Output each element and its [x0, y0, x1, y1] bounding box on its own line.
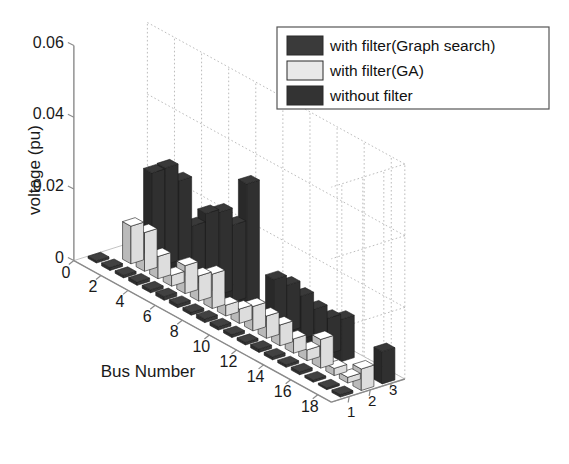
legend-item[interactable]: with filter(GA)	[287, 61, 424, 80]
tick-value	[68, 114, 74, 117]
bar	[374, 343, 395, 384]
legend-group: with filter(Graph search)with filter(GA)…	[277, 27, 549, 109]
tick-label-bus: 8	[170, 323, 179, 340]
bar-face-front	[166, 164, 179, 265]
legend-item[interactable]: with filter(Graph search)	[287, 36, 495, 55]
bar-face-front	[247, 180, 260, 309]
tick-label-series: 2	[368, 392, 376, 409]
bar-face-front	[253, 303, 266, 331]
tick-label-bus: 0	[61, 264, 70, 281]
legend-swatch-ga	[287, 61, 323, 80]
tick-label-bus: 2	[89, 278, 98, 295]
tick-label-bus: 12	[220, 353, 238, 370]
gridline-value-side	[331, 164, 405, 187]
bar-face-left	[374, 347, 382, 384]
legend-swatch-without-filter	[287, 86, 323, 105]
bar-face-front	[158, 253, 171, 279]
bar-face-front	[212, 270, 225, 308]
tick-value	[68, 43, 74, 46]
legend-label: without filter	[329, 87, 413, 104]
bar	[123, 218, 144, 264]
tick-label-series: 1	[347, 403, 355, 420]
bar-face-front	[233, 221, 246, 302]
gridline-value-side	[331, 236, 405, 259]
tick-label-bus: 14	[247, 368, 265, 385]
tick-label-series: 3	[389, 381, 397, 398]
bar-face-front	[280, 321, 293, 346]
bar-face-front	[131, 222, 144, 264]
bar-face-front	[321, 336, 334, 369]
tick-label-bus: 10	[192, 338, 210, 355]
bar-face-front	[361, 365, 374, 390]
tick-label-bus: 6	[143, 308, 152, 325]
bar-face-front	[145, 229, 158, 272]
bar-face-front	[342, 315, 355, 361]
tick-label-bus: 4	[116, 293, 125, 310]
bar-face-front	[199, 272, 212, 301]
tick-value	[68, 258, 74, 261]
bar-face-front	[185, 262, 198, 294]
tick-label-value: 0.06	[33, 34, 64, 51]
legend-label: with filter(GA)	[329, 62, 424, 79]
chart-figure: 00.020.040.06024681012141618123voltage (…	[0, 0, 569, 464]
tick-label-bus: 18	[301, 398, 319, 415]
legend-item[interactable]: without filter	[287, 86, 413, 105]
legend-label: with filter(Graph search)	[329, 37, 495, 54]
bar-face-left	[123, 222, 131, 264]
legend-swatch-graph-search	[287, 36, 323, 55]
bar3-chart-canvas: 00.020.040.06024681012141618123voltage (…	[0, 0, 569, 464]
tick-value	[68, 186, 74, 189]
bar-face-front	[382, 348, 395, 384]
bar-face-front	[266, 312, 279, 338]
bar-face-front	[301, 292, 314, 339]
tick-label-value: 0.04	[33, 105, 64, 122]
tick-label-bus: 16	[274, 383, 292, 400]
axis-title-voltage: voltage (pu)	[25, 125, 44, 215]
axis-title-bus-number: Bus Number	[101, 362, 196, 381]
